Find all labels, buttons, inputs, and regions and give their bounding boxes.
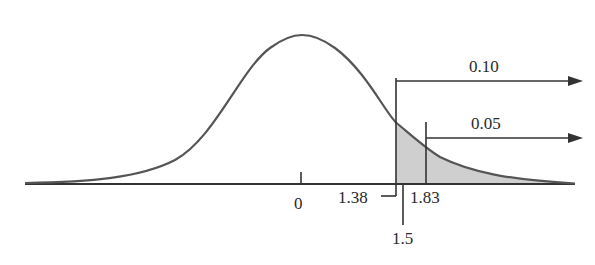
arrow-head-icon	[568, 133, 583, 143]
arrow-head-icon	[568, 76, 583, 86]
label-1-38: 1.38	[338, 188, 368, 207]
normal-distribution-diagram: 0 1.38 1.5 1.83 0.10 0.05	[0, 0, 595, 265]
label-area-010: 0.10	[469, 57, 499, 76]
label-1-5: 1.5	[392, 229, 413, 248]
label-area-005: 0.05	[471, 114, 501, 133]
label-1-83: 1.83	[410, 188, 440, 207]
label-zero: 0	[294, 194, 303, 213]
